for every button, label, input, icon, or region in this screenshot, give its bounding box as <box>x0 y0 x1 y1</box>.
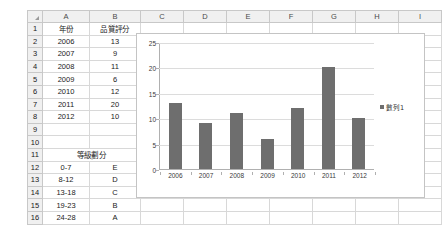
cell-a6[interactable]: 2010 <box>43 85 90 98</box>
cell-a4[interactable]: 2008 <box>43 60 90 73</box>
bar-2006[interactable] <box>169 103 182 169</box>
row-header[interactable]: 8 <box>28 111 43 124</box>
cell-g16[interactable] <box>313 211 356 224</box>
triangle-icon <box>35 16 39 20</box>
cell-a11-grade-heading[interactable]: 等級劃分 <box>43 148 141 161</box>
row-header[interactable]: 3 <box>28 48 43 61</box>
row-header[interactable]: 16 <box>28 211 43 224</box>
bar-slot <box>282 43 313 169</box>
x-axis <box>159 169 374 170</box>
cell-h16[interactable] <box>356 211 399 224</box>
embedded-bar-chart[interactable]: 0510152025 2006200720082009201020112012 … <box>136 33 425 198</box>
cell-a7[interactable]: 2011 <box>43 98 90 111</box>
cell-b3[interactable]: 9 <box>90 48 141 61</box>
cell-a14[interactable]: 13-18 <box>43 186 90 199</box>
y-axis-tick-mark <box>156 43 159 44</box>
row-header[interactable]: 14 <box>28 186 43 199</box>
cell-i15[interactable] <box>399 199 442 212</box>
column-header-b[interactable]: B <box>90 11 141 23</box>
cell-a13[interactable]: 8-12 <box>43 174 90 187</box>
cell-b5[interactable]: 6 <box>90 73 141 86</box>
table-row[interactable]: 15 19-23 B <box>28 199 442 212</box>
row-header[interactable]: 13 <box>28 174 43 187</box>
cell-a9[interactable] <box>43 123 90 136</box>
cell-a16[interactable]: 24-28 <box>43 211 90 224</box>
cell-i16[interactable] <box>399 211 442 224</box>
chart-legend[interactable]: 數列1 <box>380 102 404 112</box>
cell-d15[interactable] <box>184 199 227 212</box>
cell-a8[interactable]: 2012 <box>43 111 90 124</box>
cell-g15[interactable] <box>313 199 356 212</box>
column-header-g[interactable]: G <box>313 11 356 23</box>
row-header[interactable]: 12 <box>28 161 43 174</box>
cell-c15[interactable] <box>141 199 184 212</box>
row-header[interactable]: 7 <box>28 98 43 111</box>
cell-b8[interactable]: 10 <box>90 111 141 124</box>
cell-b15[interactable]: B <box>90 199 141 212</box>
legend-swatch-icon <box>380 105 384 109</box>
column-header-d[interactable]: D <box>184 11 227 23</box>
cell-b14[interactable]: C <box>90 186 141 199</box>
cell-b2[interactable]: 13 <box>90 35 141 48</box>
x-axis-tick-label: 2007 <box>191 172 222 179</box>
bar-2011[interactable] <box>322 67 335 169</box>
cell-h15[interactable] <box>356 199 399 212</box>
y-axis-tick-mark <box>156 94 159 95</box>
cell-c16[interactable] <box>141 211 184 224</box>
cell-d16[interactable] <box>184 211 227 224</box>
column-header-e[interactable]: E <box>227 11 270 23</box>
row-header[interactable]: 6 <box>28 85 43 98</box>
x-axis-labels: 2006200720082009201020112012 <box>160 172 375 179</box>
bar-2007[interactable] <box>199 123 212 169</box>
cell-b1[interactable]: 品質評分 <box>90 23 141 36</box>
cell-f15[interactable] <box>270 199 313 212</box>
row-header[interactable]: 11 <box>28 148 43 161</box>
cell-a1[interactable]: 年份 <box>43 23 90 36</box>
cell-a12[interactable]: 0-7 <box>43 161 90 174</box>
bar-2010[interactable] <box>291 108 304 169</box>
cell-b16[interactable]: A <box>90 211 141 224</box>
cell-b6[interactable]: 12 <box>90 85 141 98</box>
cell-e16[interactable] <box>227 211 270 224</box>
bar-2012[interactable] <box>352 118 365 169</box>
row-header[interactable]: 1 <box>28 23 43 36</box>
row-header[interactable]: 5 <box>28 73 43 86</box>
row-header[interactable]: 4 <box>28 60 43 73</box>
column-header-f[interactable]: F <box>270 11 313 23</box>
x-axis-tick-label: 2009 <box>252 172 283 179</box>
cell-a2[interactable]: 2006 <box>43 35 90 48</box>
bar-slot <box>252 43 283 169</box>
bar-slot <box>313 43 344 169</box>
y-axis-tick-label: 20 <box>149 65 156 72</box>
select-all-corner[interactable] <box>28 11 43 23</box>
x-axis-tick-label: 2006 <box>160 172 191 179</box>
cell-f16[interactable] <box>270 211 313 224</box>
column-header-a[interactable]: A <box>43 11 90 23</box>
cell-a15[interactable]: 19-23 <box>43 199 90 212</box>
row-header[interactable]: 15 <box>28 199 43 212</box>
table-row[interactable]: 16 24-28 A <box>28 211 442 224</box>
cell-b4[interactable]: 11 <box>90 60 141 73</box>
cell-b10[interactable] <box>90 136 141 149</box>
cell-b13[interactable]: D <box>90 174 141 187</box>
x-axis-tick-label: 2012 <box>344 172 375 179</box>
cell-b9[interactable] <box>90 123 141 136</box>
cell-b7[interactable]: 20 <box>90 98 141 111</box>
row-header[interactable]: 9 <box>28 123 43 136</box>
x-axis-tick-mark <box>344 172 345 175</box>
bar-2008[interactable] <box>230 113 243 169</box>
cell-a10[interactable] <box>43 136 90 149</box>
column-header-h[interactable]: H <box>356 11 399 23</box>
row-header[interactable]: 2 <box>28 35 43 48</box>
cell-e15[interactable] <box>227 199 270 212</box>
x-axis-tick-label: 2010 <box>283 172 314 179</box>
column-header-i[interactable]: I <box>399 11 442 23</box>
bar-2009[interactable] <box>261 139 274 169</box>
cell-a5[interactable]: 2009 <box>43 73 90 86</box>
column-header-c[interactable]: C <box>141 11 184 23</box>
bar-slot <box>191 43 222 169</box>
cell-b12[interactable]: E <box>90 161 141 174</box>
cell-a3[interactable]: 2007 <box>43 48 90 61</box>
row-header[interactable]: 10 <box>28 136 43 149</box>
